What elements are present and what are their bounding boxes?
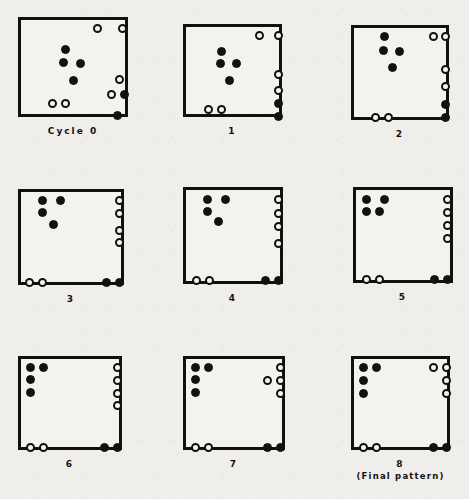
open-marker-dot	[443, 208, 452, 217]
panel-caption: Cycle 0	[0, 125, 158, 137]
open-marker-dot	[359, 443, 368, 452]
open-marker-dot	[372, 443, 381, 452]
filled-marker-dot	[261, 276, 270, 285]
filled-marker-dot	[263, 443, 272, 452]
filled-marker-dot	[76, 59, 85, 68]
open-marker-dot	[118, 24, 127, 33]
open-marker-dot	[263, 376, 272, 385]
filled-marker-dot	[441, 113, 450, 122]
filled-marker-dot	[274, 276, 283, 285]
panel-caption: 1	[153, 125, 312, 137]
open-marker-dot	[276, 363, 285, 372]
open-marker-dot	[191, 443, 200, 452]
open-marker-dot	[113, 389, 122, 398]
filled-marker-dot	[359, 389, 368, 398]
panel-caption: 5	[323, 291, 469, 303]
pattern-panel	[18, 356, 122, 450]
filled-marker-dot	[362, 207, 371, 216]
filled-marker-dot	[38, 208, 47, 217]
panel-caption-label: 3	[67, 294, 75, 304]
open-marker-dot	[39, 443, 48, 452]
filled-marker-dot	[221, 195, 230, 204]
filled-marker-dot	[214, 217, 223, 226]
filled-marker-dot	[359, 363, 368, 372]
open-marker-dot	[274, 86, 283, 95]
filled-marker-dot	[120, 90, 129, 99]
filled-marker-dot	[191, 375, 200, 384]
open-marker-dot	[443, 195, 452, 204]
filled-marker-dot	[115, 278, 124, 287]
open-marker-dot	[274, 195, 283, 204]
open-marker-dot	[375, 275, 384, 284]
open-marker-dot	[107, 90, 116, 99]
panel-border-box	[18, 189, 124, 285]
open-marker-dot	[204, 105, 213, 114]
panel-caption-label: 1	[228, 126, 236, 136]
open-marker-dot	[61, 99, 70, 108]
open-marker-dot	[276, 389, 285, 398]
filled-marker-dot	[113, 443, 122, 452]
open-marker-dot	[115, 226, 124, 235]
open-marker-dot	[443, 221, 452, 230]
open-marker-dot	[48, 99, 57, 108]
panel-border-box	[183, 24, 282, 117]
pattern-panel	[183, 24, 282, 117]
open-marker-dot	[26, 443, 35, 452]
open-marker-dot	[371, 113, 380, 122]
open-marker-dot	[274, 209, 283, 218]
filled-marker-dot	[216, 59, 225, 68]
filled-marker-dot	[56, 196, 65, 205]
filled-marker-dot	[204, 363, 213, 372]
open-marker-dot	[429, 32, 438, 41]
panel-caption-label: 5	[399, 292, 407, 302]
panel-caption-label: 4	[229, 293, 237, 303]
filled-marker-dot	[26, 388, 35, 397]
filled-marker-dot	[191, 363, 200, 372]
open-marker-dot	[205, 276, 214, 285]
panel-border-box	[18, 356, 122, 450]
open-marker-dot	[441, 82, 450, 91]
open-marker-dot	[115, 238, 124, 247]
pattern-panel	[183, 187, 283, 284]
filled-marker-dot	[217, 47, 226, 56]
panel-subcaption-label: (Final pattern)	[321, 470, 469, 482]
open-marker-dot	[255, 31, 264, 40]
open-marker-dot	[274, 31, 283, 40]
open-marker-dot	[274, 239, 283, 248]
pattern-panel	[183, 356, 285, 450]
panel-border-box	[351, 25, 449, 120]
filled-marker-dot	[379, 46, 388, 55]
filled-marker-dot	[113, 111, 122, 120]
open-marker-dot	[113, 363, 122, 372]
open-marker-dot	[38, 278, 47, 287]
open-marker-dot	[429, 363, 438, 372]
open-marker-dot	[113, 401, 122, 410]
open-marker-dot	[274, 222, 283, 231]
open-marker-dot	[384, 113, 393, 122]
pattern-panel	[351, 25, 449, 120]
filled-marker-dot	[441, 100, 450, 109]
panel-caption-label: 7	[230, 459, 238, 469]
filled-marker-dot	[100, 443, 109, 452]
open-marker-dot	[115, 196, 124, 205]
filled-marker-dot	[372, 363, 381, 372]
filled-marker-dot	[375, 207, 384, 216]
panel-border-box	[353, 187, 453, 283]
pattern-panel	[18, 189, 124, 285]
open-marker-dot	[442, 376, 451, 385]
filled-marker-dot	[49, 220, 58, 229]
panel-caption-label: 6	[66, 459, 74, 469]
panel-border-box	[183, 356, 285, 450]
filled-marker-dot	[61, 45, 70, 54]
filled-marker-dot	[395, 47, 404, 56]
filled-marker-dot	[429, 443, 438, 452]
filled-marker-dot	[38, 196, 47, 205]
open-marker-dot	[362, 275, 371, 284]
pattern-panel	[353, 187, 453, 283]
filled-marker-dot	[225, 76, 234, 85]
open-marker-dot	[441, 65, 450, 74]
figure-pattern-evolution: Cycle 012345678(Final pattern)	[0, 0, 469, 499]
panel-caption: 6	[0, 458, 152, 470]
open-marker-dot	[25, 278, 34, 287]
filled-marker-dot	[69, 76, 78, 85]
